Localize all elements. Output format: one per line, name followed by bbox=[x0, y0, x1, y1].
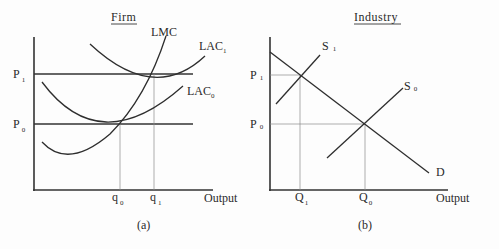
label-lac0: LAC0 bbox=[187, 84, 215, 100]
caption-b: (b) bbox=[358, 218, 372, 232]
diagram-svg: Firm LMC LAC1 LAC0 P1 P0 q0 q1 Output (a… bbox=[0, 0, 499, 249]
label-lmc: LMC bbox=[151, 25, 177, 39]
panel-title-firm: Firm bbox=[111, 10, 137, 24]
label-p1-firm: P1 bbox=[13, 67, 26, 84]
label-d: D bbox=[436, 165, 445, 179]
label-p1-industry: P1 bbox=[250, 68, 264, 82]
curve-lac1 bbox=[90, 44, 205, 77]
economics-diagram: Firm LMC LAC1 LAC0 P1 P0 q0 q1 Output (a… bbox=[0, 0, 499, 249]
label-s1: S1 bbox=[322, 39, 337, 53]
curve-demand bbox=[270, 52, 429, 173]
label-q0: q0 bbox=[112, 190, 124, 207]
panel-title-industry: Industry bbox=[354, 10, 398, 24]
label-lac1: LAC1 bbox=[199, 39, 227, 55]
label-q1: q1 bbox=[150, 190, 162, 207]
x-axis-label-firm: Output bbox=[204, 191, 238, 205]
caption-a: (a) bbox=[137, 218, 150, 232]
label-Q0: Q0 bbox=[359, 190, 373, 207]
panel-firm: Firm LMC LAC1 LAC0 P1 P0 q0 q1 Output (a… bbox=[13, 10, 238, 232]
label-p0-industry: P0 bbox=[250, 117, 264, 131]
x-axis-label-industry: Output bbox=[436, 191, 470, 205]
label-p0-firm: P0 bbox=[13, 117, 26, 134]
panel-industry: Industry S1 S0 D P1 P0 Q1 Q0 Output (b) bbox=[250, 10, 470, 232]
label-s0: S0 bbox=[404, 79, 418, 93]
label-Q1: Q1 bbox=[295, 190, 309, 207]
curve-lmc bbox=[42, 36, 166, 154]
curve-lac0 bbox=[42, 82, 183, 122]
